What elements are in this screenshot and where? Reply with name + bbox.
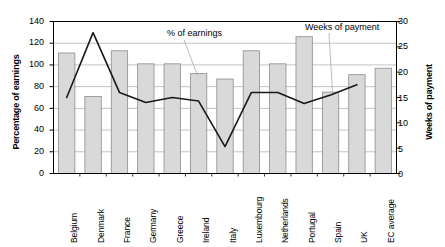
x-axis-label-italy: Italy	[229, 228, 238, 243]
x-axis-label-luxembourg: Luxembourg	[255, 197, 264, 243]
x-axis-label-france: France	[123, 217, 132, 243]
plot-area	[0, 0, 445, 247]
x-axis-label-greece: Greece	[176, 216, 185, 243]
chart-container: Percentage of earnings Weeks of payment …	[0, 0, 445, 247]
line-series	[67, 33, 357, 147]
x-axis-label-spain: Spain	[334, 222, 343, 243]
x-axis-label-netherlands: Netherlands	[281, 198, 290, 243]
x-axis-label-ec-average: EC average	[387, 199, 396, 243]
x-axis-label-belgium: Belgium	[70, 213, 79, 243]
x-axis-label-ireland: Ireland	[202, 218, 211, 243]
x-axis-label-denmark: Denmark	[97, 209, 106, 243]
x-axis-label-uk: UK	[360, 231, 369, 243]
x-axis-label-portugal: Portugal	[308, 212, 317, 243]
x-axis-label-germany: Germany	[149, 209, 158, 243]
bar-series	[59, 37, 392, 174]
